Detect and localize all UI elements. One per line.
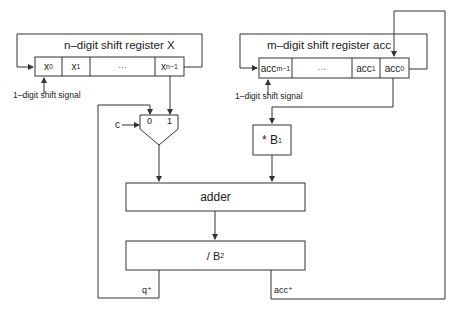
register-acc-cell-0: acc0 bbox=[380, 58, 409, 78]
register-acc-shift-signal: 1–digit shift signal bbox=[235, 91, 303, 101]
register-acc-cell-ellipsis: ... bbox=[292, 56, 352, 76]
mux-input-1: 1 bbox=[167, 116, 172, 126]
register-x-cell-n-1: xn−1 bbox=[155, 57, 184, 76]
register-x-shift-signal: 1–digit shift signal bbox=[13, 90, 81, 100]
register-x-cell-ellipsis: ... bbox=[90, 55, 155, 74]
register-x-cell-1: x1 bbox=[62, 57, 90, 76]
q-plus-label: q⁺ bbox=[142, 285, 152, 295]
divider-b2: / B2 bbox=[126, 241, 305, 270]
adder-block: adder bbox=[126, 183, 305, 211]
register-acc-title: m–digit shift register acc bbox=[267, 39, 391, 51]
register-x-cell-0: x0 bbox=[35, 57, 62, 76]
multiplier-b1: * B1 bbox=[253, 125, 291, 155]
register-x-title: n–digit shift register X bbox=[64, 39, 175, 51]
register-acc-cell-m-1: accm−1 bbox=[259, 58, 292, 78]
acc-plus-label: acc⁺ bbox=[274, 285, 293, 295]
register-acc-cell-1: acc1 bbox=[352, 58, 380, 78]
mux-input-0: 0 bbox=[147, 116, 152, 126]
mux-select-label: c bbox=[115, 119, 120, 130]
